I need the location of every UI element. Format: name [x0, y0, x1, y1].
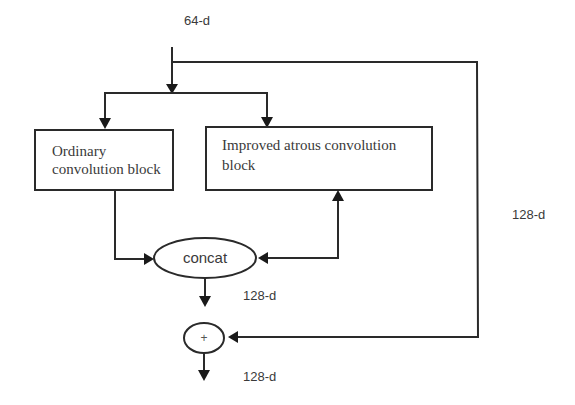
concat-output-dimension-label: 128-d	[243, 288, 276, 303]
diagram-canvas: 64-d Ordinary convolution block Improved…	[0, 0, 575, 405]
arrow-left-icon	[258, 252, 268, 264]
concat-label: concat	[183, 249, 228, 266]
output-line	[198, 353, 210, 381]
add-node: +	[184, 323, 224, 353]
plus-icon: +	[200, 331, 207, 345]
ordinary-to-concat-line	[115, 190, 154, 265]
arrow-right-icon	[144, 253, 154, 265]
input-dimension-label: 64-d	[184, 13, 210, 28]
ordinary-block-label-line2: convolution block	[52, 161, 161, 177]
concat-atrous-link	[258, 190, 344, 264]
concat-node: concat	[154, 238, 256, 278]
arrow-up-icon	[332, 190, 344, 201]
arrow-left-icon	[228, 331, 238, 343]
ordinary-block-label-line1: Ordinary	[52, 143, 107, 159]
atrous-convolution-block: Improved atrous convolution block	[206, 127, 432, 190]
concat-to-add-line	[199, 278, 211, 307]
atrous-block-label-line2: block	[222, 157, 256, 173]
input-line	[166, 47, 178, 94]
skip-dimension-label: 128-d	[512, 207, 545, 222]
arrow-down-icon	[99, 118, 111, 129]
atrous-block-label-line1: Improved atrous convolution	[222, 137, 397, 153]
arrow-down-icon	[198, 370, 210, 381]
arrow-down-icon	[199, 296, 211, 307]
branch-lines	[99, 93, 273, 129]
final-output-dimension-label: 128-d	[243, 369, 276, 384]
skip-connection-line	[172, 62, 478, 343]
ordinary-convolution-block: Ordinary convolution block	[35, 130, 173, 190]
